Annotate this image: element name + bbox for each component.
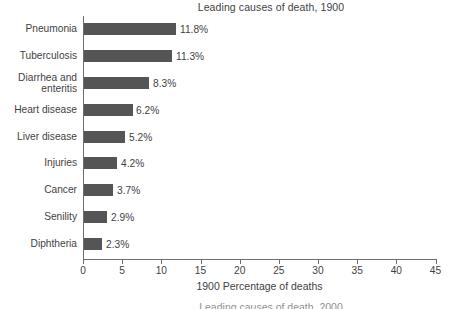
bar-value-label: 11.8% xyxy=(180,24,208,35)
category-label: Pneumonia xyxy=(0,24,77,36)
x-tick-mark xyxy=(161,259,162,264)
bar-value-label: 6.2% xyxy=(136,104,159,115)
bar xyxy=(84,104,133,116)
category-label: Senility xyxy=(0,211,77,223)
category-label: Diarrhea and enteritis xyxy=(0,71,77,94)
x-tick-mark xyxy=(83,259,84,264)
bar-row: Injuries 4.2% xyxy=(0,150,449,177)
bar-row: Pneumonia 11.8% xyxy=(0,16,449,43)
bar-row: Tuberculosis 11.3% xyxy=(0,43,449,70)
bar xyxy=(84,238,102,250)
x-tick-label: 30 xyxy=(303,265,333,276)
x-tick-mark xyxy=(240,259,241,264)
bar-row: Senility 2.9% xyxy=(0,204,449,231)
bar-value-label: 3.7% xyxy=(117,185,140,196)
bar xyxy=(84,131,125,143)
x-tick-mark xyxy=(357,259,358,264)
bar xyxy=(84,157,117,169)
bar xyxy=(84,50,172,62)
x-axis-title: 1900 Percentage of deaths xyxy=(83,280,436,292)
x-tick-mark xyxy=(279,259,280,264)
category-label: Heart disease xyxy=(0,104,77,116)
x-tick-label: 0 xyxy=(68,265,98,276)
category-label: Cancer xyxy=(0,184,77,196)
next-chart-title-clipped: Leading causes of death, 2000 xyxy=(93,301,449,309)
x-tick-mark xyxy=(396,259,397,264)
x-tick-label: 45 xyxy=(421,265,449,276)
bar xyxy=(84,23,176,35)
bar-row: Liver disease 5.2% xyxy=(0,123,449,150)
bar-value-label: 4.2% xyxy=(121,158,144,169)
bar-value-label: 2.3% xyxy=(106,238,129,249)
bar xyxy=(84,77,149,89)
category-label: Liver disease xyxy=(0,131,77,143)
x-tick-mark xyxy=(318,259,319,264)
bar-value-label: 11.3% xyxy=(176,51,204,62)
x-tick-label: 25 xyxy=(264,265,294,276)
x-tick-label: 40 xyxy=(381,265,411,276)
bar-row: Cancer 3.7% xyxy=(0,177,449,204)
x-tick-label: 15 xyxy=(186,265,216,276)
x-tick-mark xyxy=(436,259,437,264)
x-tick-label: 10 xyxy=(146,265,176,276)
bar-value-label: 2.9% xyxy=(111,211,134,222)
x-tick-label: 20 xyxy=(225,265,255,276)
x-tick-label: 5 xyxy=(107,265,137,276)
x-tick-mark xyxy=(201,259,202,264)
bar-value-label: 5.2% xyxy=(129,131,152,142)
x-tick-label: 35 xyxy=(342,265,372,276)
category-label: Diphtheria xyxy=(0,238,77,250)
bar xyxy=(84,184,113,196)
bar-row: Diarrhea and enteritis 8.3% xyxy=(0,70,449,97)
bar-value-label: 8.3% xyxy=(153,77,176,88)
bar-row: Diphtheria 2.3% xyxy=(0,230,449,257)
bar-chart-plot-area: Pneumonia 11.8% Tuberculosis 11.3% Diarr… xyxy=(0,0,449,286)
x-axis-line xyxy=(83,259,436,260)
category-label: Tuberculosis xyxy=(0,50,77,62)
category-label: Injuries xyxy=(0,158,77,170)
x-tick-mark xyxy=(122,259,123,264)
bar-row: Heart disease 6.2% xyxy=(0,96,449,123)
bar xyxy=(84,211,107,223)
